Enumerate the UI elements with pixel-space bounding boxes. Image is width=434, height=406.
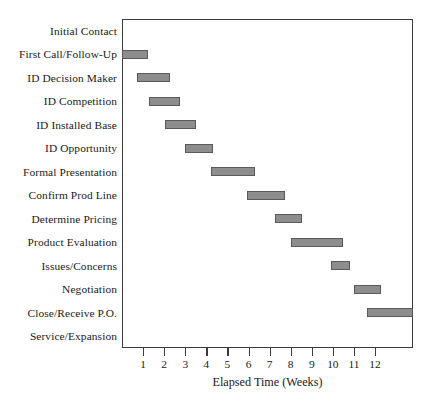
category-label: ID Opportunity [0, 142, 117, 154]
gantt-bar [275, 214, 302, 223]
gantt-bar [137, 73, 171, 82]
category-label: Close/Receive P.O. [0, 307, 117, 319]
x-tick-mark [227, 348, 228, 356]
x-tick-label: 7 [267, 357, 273, 371]
x-tick-label: 1 [140, 357, 146, 371]
category-label: Initial Contact [0, 25, 117, 37]
x-tick-mark [270, 348, 271, 356]
x-tick-label: 6 [246, 357, 252, 371]
x-tick-mark [312, 348, 313, 356]
x-tick-mark [291, 348, 292, 356]
x-tick-mark [333, 348, 334, 356]
x-tick-label: 4 [203, 357, 209, 371]
gantt-bar [122, 50, 148, 59]
gantt-bar [367, 308, 413, 317]
category-label: Formal Presentation [0, 166, 117, 178]
gantt-bars-layer [122, 19, 413, 348]
x-tick-label: 11 [348, 357, 359, 371]
gantt-bar [331, 261, 350, 270]
gantt-bar [185, 144, 212, 153]
x-tick-mark [206, 348, 207, 356]
x-tick-label: 8 [288, 357, 294, 371]
category-label: Issues/Concerns [0, 260, 117, 272]
x-tick-mark [185, 348, 186, 356]
category-label: Service/Expansion [0, 330, 117, 342]
category-label: Confirm Prod Line [0, 189, 117, 201]
category-label: Determine Pricing [0, 213, 117, 225]
category-label: Product Evaluation [0, 236, 117, 248]
gantt-bar [354, 285, 381, 294]
category-axis-labels: Initial ContactFirst Call/Follow-UpID De… [0, 19, 117, 348]
category-label: Negotiation [0, 283, 117, 295]
x-tick-label: 5 [225, 357, 231, 371]
gantt-bar [291, 238, 344, 247]
gantt-bar [165, 120, 196, 129]
gantt-bar [247, 191, 285, 200]
x-tick-mark [375, 348, 376, 356]
category-label: ID Installed Base [0, 119, 117, 131]
category-label: First Call/Follow-Up [0, 48, 117, 60]
x-axis-tick-labels: 123456789101112 [0, 357, 434, 373]
x-axis-title: Elapsed Time (Weeks) [122, 375, 413, 390]
x-tick-mark [354, 348, 355, 356]
x-tick-label: 10 [327, 357, 338, 371]
x-tick-mark [164, 348, 165, 356]
gantt-bar [149, 97, 180, 106]
gantt-chart-figure: Initial ContactFirst Call/Follow-UpID De… [0, 0, 434, 406]
x-tick-label: 3 [182, 357, 188, 371]
x-tick-label: 9 [309, 357, 315, 371]
x-tick-label: 12 [369, 357, 380, 371]
x-tick-label: 2 [161, 357, 167, 371]
gantt-bar [211, 167, 255, 176]
x-tick-mark [249, 348, 250, 356]
x-tick-mark [143, 348, 144, 356]
category-label: ID Decision Maker [0, 72, 117, 84]
category-label: ID Competition [0, 95, 117, 107]
